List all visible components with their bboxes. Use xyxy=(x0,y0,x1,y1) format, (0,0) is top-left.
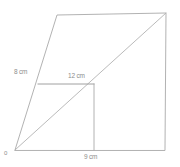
left-side-measurement-label: 8 cm xyxy=(14,69,27,76)
diagonal-line xyxy=(15,13,166,150)
base-measurement-label: 9 cm xyxy=(84,154,97,161)
origin-label: 0 xyxy=(4,150,7,156)
geometry-figure: 0 8 cm 12 cm 9 cm xyxy=(0,0,180,167)
figure-canvas xyxy=(0,0,180,167)
middle-horizontal-measurement-label: 12 cm xyxy=(68,73,85,80)
